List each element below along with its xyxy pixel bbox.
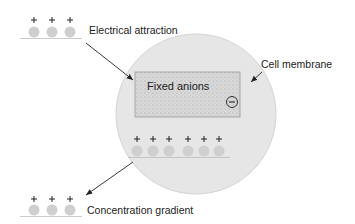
fixed-anions-box xyxy=(135,72,240,117)
concentration-gradient-arrow xyxy=(86,162,133,195)
electrical-attraction-arrow xyxy=(86,43,133,80)
fixed-anions-label: Fixed anions xyxy=(147,80,209,92)
top-left-cation-group xyxy=(20,17,82,39)
cell-membrane-label: Cell membrane xyxy=(261,58,332,70)
electrical-attraction-label: Electrical attraction xyxy=(89,24,178,36)
bottom-left-cation-group xyxy=(20,196,82,217)
concentration-gradient-label: Concentration gradient xyxy=(87,204,193,216)
